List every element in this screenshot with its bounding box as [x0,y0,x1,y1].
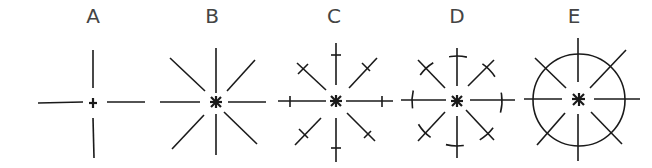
star-ticks-icon-c [278,43,393,162]
star-dashed-circle-icon-d [401,48,515,158]
diagram-canvas [0,0,652,168]
cross-icon-a [38,50,145,158]
star-circle-icon-e [524,38,640,161]
star-icon-b [160,48,266,155]
